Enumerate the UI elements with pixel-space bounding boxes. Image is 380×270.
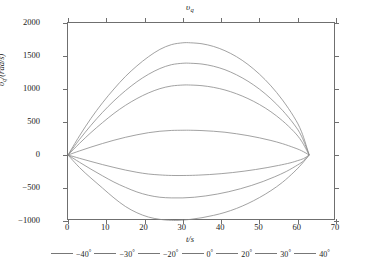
y-tick-1000 xyxy=(334,89,339,90)
x-tick-label-0: 0 xyxy=(47,222,87,232)
x-tick-label-30: 30 xyxy=(162,222,202,232)
y-tick-label-500: 500 xyxy=(0,116,40,126)
legend-item-2[interactable]: −20° xyxy=(136,248,180,259)
y-tick--500 xyxy=(334,188,339,189)
legend-item-6[interactable]: 40° xyxy=(292,248,331,259)
legend-label-6: 40° xyxy=(318,248,331,259)
series-line-0deg xyxy=(68,130,309,155)
x-tick-70 xyxy=(336,18,337,23)
x-tick-label-60: 60 xyxy=(277,222,317,232)
legend-item-5[interactable]: 30° xyxy=(253,248,292,259)
y-tick-label--1000: −1000 xyxy=(0,215,40,225)
legend-swatch-line-3 xyxy=(182,253,204,254)
x-tick-label-10: 10 xyxy=(85,222,125,232)
x-tick-0 xyxy=(68,18,69,23)
legend-label-3: 0° xyxy=(206,248,215,259)
chart-title: υq xyxy=(0,2,380,13)
x-tick-label-70: 70 xyxy=(315,222,355,232)
x-tick-label-40: 40 xyxy=(200,222,240,232)
x-axis-title: t/s xyxy=(0,234,380,244)
legend-label-4: 20° xyxy=(240,248,253,259)
plot-area xyxy=(67,22,335,220)
x-tick-50 xyxy=(259,18,260,23)
x-tick-60 xyxy=(298,18,299,23)
series-line-40deg xyxy=(68,43,309,155)
curves-canvas xyxy=(68,23,336,221)
legend-label-1: −30° xyxy=(118,248,136,259)
legend-label-0: −40° xyxy=(75,248,93,259)
chart-title-subscript: q xyxy=(190,6,193,13)
legend-swatch-line-0 xyxy=(51,253,73,254)
series-line-20deg xyxy=(68,85,309,155)
y-tick-0 xyxy=(334,155,339,156)
legend-swatch-line-6 xyxy=(294,253,316,254)
y-tick-1000 xyxy=(63,89,68,90)
y-tick-2000 xyxy=(334,23,339,24)
legend-item-0[interactable]: −40° xyxy=(49,248,93,259)
y-tick-label-0: 0 xyxy=(0,149,40,159)
legend-item-4[interactable]: 20° xyxy=(214,248,253,259)
legend-label-5: 30° xyxy=(279,248,292,259)
y-tick-2000 xyxy=(63,23,68,24)
y-tick--500 xyxy=(63,188,68,189)
y-tick-label--500: −500 xyxy=(0,182,40,192)
legend-swatch-line-5 xyxy=(255,253,277,254)
y-tick-label-1000: 1000 xyxy=(0,83,40,93)
y-tick-500 xyxy=(334,122,339,123)
figure: υq υq/(rad/s) t/s −1000−5000500100015002… xyxy=(0,0,380,270)
legend-swatch-line-4 xyxy=(216,253,238,254)
y-tick-0 xyxy=(63,155,68,156)
legend-swatch-line-1 xyxy=(94,253,116,254)
y-tick-500 xyxy=(63,122,68,123)
x-tick-30 xyxy=(183,18,184,23)
y-tick-1500 xyxy=(334,56,339,57)
x-tick-label-50: 50 xyxy=(238,222,278,232)
series-line--30deg xyxy=(68,155,309,198)
legend-swatch-line-2 xyxy=(138,253,160,254)
x-tick-20 xyxy=(145,18,146,23)
legend: −40°−30°−20°0°20°30°40° xyxy=(0,248,380,259)
y-axis-title-subscript: q xyxy=(1,79,7,82)
x-tick-10 xyxy=(106,18,107,23)
series-line--20deg xyxy=(68,155,309,176)
x-tick-40 xyxy=(221,18,222,23)
legend-item-1[interactable]: −30° xyxy=(92,248,136,259)
y-tick-1500 xyxy=(63,56,68,57)
legend-label-2: −20° xyxy=(162,248,180,259)
y-tick-label-2000: 2000 xyxy=(0,17,40,27)
y-tick-label-1500: 1500 xyxy=(0,50,40,60)
x-tick-label-20: 20 xyxy=(124,222,164,232)
legend-item-3[interactable]: 0° xyxy=(180,248,215,259)
